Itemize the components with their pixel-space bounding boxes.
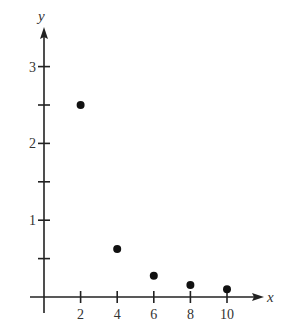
data-point xyxy=(223,285,231,293)
data-point xyxy=(77,101,85,109)
data-point xyxy=(113,245,121,253)
y-tick-label: 1 xyxy=(29,213,36,228)
y-ticks: 123 xyxy=(29,60,50,259)
axes: x y xyxy=(30,8,274,313)
x-tick-label: 8 xyxy=(187,307,194,322)
data-point xyxy=(186,281,194,289)
x-ticks: 246810 xyxy=(77,291,234,322)
x-tick-label: 2 xyxy=(77,307,84,322)
scatter-plot: x y 246810 123 xyxy=(0,0,298,336)
y-tick-label: 2 xyxy=(29,136,36,151)
x-tick-label: 6 xyxy=(150,307,157,322)
x-tick-label: 4 xyxy=(114,307,121,322)
x-tick-label: 10 xyxy=(220,307,234,322)
x-axis-label: x xyxy=(266,289,274,305)
data-points xyxy=(77,101,231,293)
y-tick-label: 3 xyxy=(29,60,36,75)
y-axis-label: y xyxy=(36,8,45,24)
data-point xyxy=(150,272,158,280)
